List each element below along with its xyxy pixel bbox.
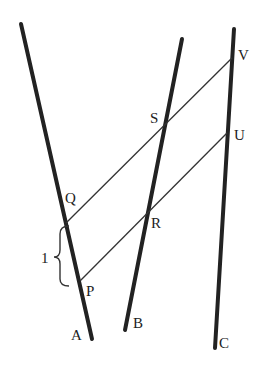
label-s: S [150, 110, 158, 126]
label-c: C [219, 335, 229, 351]
label-r: R [151, 215, 161, 231]
label-a: A [71, 327, 82, 343]
label-p: P [86, 283, 94, 299]
label-b: B [133, 315, 143, 331]
label-q: Q [65, 190, 76, 206]
line-c [215, 29, 234, 348]
label-v: V [238, 47, 249, 63]
line-b [125, 39, 182, 330]
line-a [21, 24, 92, 339]
geometry-diagram: V S U Q R P 1 A B C [0, 0, 263, 370]
brace-label: 1 [41, 250, 49, 266]
label-u: U [234, 127, 245, 143]
parallel-pu [80, 133, 227, 281]
